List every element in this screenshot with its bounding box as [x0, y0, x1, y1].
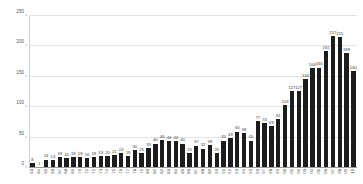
bar-cell[interactable]: 77 — [254, 16, 261, 168]
bar-cell[interactable]: 44 — [166, 16, 173, 168]
bar-cell[interactable]: 103 — [282, 16, 289, 168]
bar-cell[interactable]: 18 — [90, 16, 97, 168]
x-axis-label-cell: 04 — [309, 169, 316, 182]
x-axis-tick-label: 01 — [290, 169, 294, 174]
bar-cell[interactable]: 19 — [125, 16, 132, 168]
bar[interactable] — [310, 68, 314, 168]
bar-cell[interactable]: 165 — [316, 16, 323, 168]
y-axis-tick — [25, 106, 27, 107]
bar-cell[interactable]: 127 — [288, 16, 295, 168]
bar[interactable] — [235, 132, 239, 168]
bar[interactable] — [194, 146, 198, 168]
bar-cell[interactable]: 25 — [138, 16, 145, 168]
x-axis-tick-label: 85 — [181, 169, 185, 174]
bar[interactable] — [297, 91, 301, 168]
bar[interactable] — [187, 153, 191, 168]
bar-cell[interactable]: 192 — [323, 16, 330, 168]
bar[interactable] — [283, 105, 287, 168]
bar-cell[interactable]: 58 — [241, 16, 248, 168]
bar[interactable] — [303, 79, 307, 168]
bar-cell[interactable]: 25 — [213, 16, 220, 168]
bar[interactable] — [262, 123, 266, 168]
bar[interactable] — [139, 153, 143, 168]
bar[interactable] — [290, 91, 294, 168]
bar-cell[interactable]: 18 — [56, 16, 63, 168]
bar-value-label: 20 — [105, 151, 110, 155]
bar[interactable] — [167, 141, 171, 168]
y-axis-tick — [25, 167, 27, 168]
x-axis-tick-label: 66 — [51, 169, 55, 174]
bar-cell[interactable]: 45 — [248, 16, 255, 168]
bar[interactable] — [324, 51, 328, 168]
x-axis-label-cell: 02 — [295, 169, 302, 182]
bar-chart: 050100150200250 811413181618181618192021… — [0, 0, 363, 184]
bar-cell[interactable]: 37 — [193, 16, 200, 168]
x-axis-tick-label: 69 — [71, 169, 75, 174]
bar[interactable] — [208, 145, 212, 168]
bar-value-label: 25 — [139, 148, 144, 152]
bar[interactable] — [228, 138, 232, 168]
bar-cell[interactable]: 1 — [36, 16, 43, 168]
bar[interactable] — [201, 149, 205, 168]
bar[interactable] — [119, 153, 123, 168]
bar-cell[interactable]: 49 — [227, 16, 234, 168]
x-axis-tick-label: 92 — [228, 169, 232, 174]
bar-cell[interactable]: 33 — [145, 16, 152, 168]
bar-cell[interactable]: 189 — [343, 16, 350, 168]
bar-cell[interactable]: 38 — [207, 16, 214, 168]
bar-cell[interactable]: 25 — [186, 16, 193, 168]
bar-cell[interactable]: 21 — [111, 16, 118, 168]
bar[interactable] — [269, 126, 273, 168]
bar-cell[interactable]: 215 — [336, 16, 343, 168]
bar-cell[interactable]: 81 — [275, 16, 282, 168]
bar[interactable] — [174, 141, 178, 168]
bar-cell[interactable]: 16 — [63, 16, 70, 168]
bar-cell[interactable]: 18 — [70, 16, 77, 168]
bar[interactable] — [317, 68, 321, 168]
bar-cell[interactable]: 46 — [159, 16, 166, 168]
bar[interactable] — [351, 71, 355, 168]
bar[interactable] — [146, 148, 150, 168]
bar-cell[interactable]: 45 — [220, 16, 227, 168]
bar-cell[interactable]: 30 — [131, 16, 138, 168]
bar-cell[interactable]: 69 — [268, 16, 275, 168]
bar-cell[interactable]: 14 — [43, 16, 50, 168]
bar[interactable] — [160, 140, 164, 168]
bar-value-label: 60 — [235, 126, 240, 130]
bar[interactable] — [344, 53, 348, 168]
bar-cell[interactable]: 74 — [261, 16, 268, 168]
bar[interactable] — [242, 133, 246, 168]
bar[interactable] — [276, 119, 280, 168]
bar-cell[interactable]: 20 — [104, 16, 111, 168]
bar-cell[interactable]: 164 — [309, 16, 316, 168]
bar-cell[interactable]: 160 — [350, 16, 357, 168]
x-axis-tick-label: 99 — [276, 169, 280, 174]
bar[interactable] — [256, 121, 260, 168]
x-axis-tick-label: 78 — [133, 169, 137, 174]
bar[interactable] — [249, 141, 253, 168]
bar-cell[interactable]: 18 — [77, 16, 84, 168]
bar-cell[interactable]: 8 — [29, 16, 36, 168]
bar-cell[interactable]: 40 — [179, 16, 186, 168]
bar-cell[interactable]: 44 — [172, 16, 179, 168]
bar-cell[interactable]: 19 — [97, 16, 104, 168]
bar[interactable] — [133, 150, 137, 168]
bar[interactable] — [331, 36, 335, 168]
bar-cell[interactable]: 16 — [84, 16, 91, 168]
bar-cell[interactable]: 146 — [302, 16, 309, 168]
bar[interactable] — [180, 144, 184, 168]
bar-cell[interactable]: 13 — [49, 16, 56, 168]
bar-cell[interactable]: 24 — [118, 16, 125, 168]
bar[interactable] — [338, 37, 342, 168]
bar-cell[interactable]: 60 — [234, 16, 241, 168]
bar-cell[interactable]: 32 — [200, 16, 207, 168]
bar-cell[interactable]: 40 — [152, 16, 159, 168]
x-axis-label-cell: 74 — [104, 169, 111, 182]
x-axis-label-cell: 91 — [220, 169, 227, 182]
bar-cell[interactable]: 217 — [329, 16, 336, 168]
y-axis-tick — [25, 75, 27, 76]
bar[interactable] — [221, 141, 225, 168]
bar-cell[interactable]: 127 — [295, 16, 302, 168]
bar[interactable] — [215, 153, 219, 168]
bar[interactable] — [153, 144, 157, 168]
